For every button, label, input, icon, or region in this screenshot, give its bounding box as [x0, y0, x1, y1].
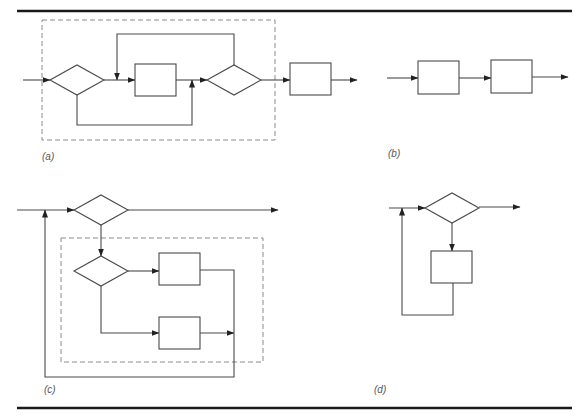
- panel-label-d: (d): [374, 384, 386, 395]
- panel-label-b: (b): [388, 148, 400, 159]
- panel-b: [387, 60, 568, 94]
- decision-diamond: [50, 65, 104, 95]
- decision-diamond: [425, 193, 479, 223]
- panel-a: [23, 20, 357, 140]
- flow-arrow: [45, 210, 234, 377]
- process-box: [159, 317, 200, 349]
- panel-label-a: (a): [42, 151, 54, 162]
- process-box: [491, 60, 532, 93]
- process-box: [290, 63, 331, 95]
- panel-d: [389, 193, 520, 315]
- panel-label-c: (c): [44, 384, 56, 395]
- flowchart-panels: [17, 20, 568, 377]
- panel-c: [17, 195, 278, 377]
- decision-diamond: [74, 195, 128, 225]
- flow-arrow: [101, 286, 159, 333]
- process-box: [418, 61, 459, 94]
- flowchart-figure: (a) (b) (c) (d): [0, 0, 585, 420]
- process-box: [159, 253, 200, 285]
- decision-diamond: [74, 256, 128, 286]
- flowchart-diagram-canvas: [0, 0, 585, 420]
- process-box: [431, 251, 472, 283]
- decision-diamond: [207, 65, 261, 95]
- process-box: [135, 64, 176, 96]
